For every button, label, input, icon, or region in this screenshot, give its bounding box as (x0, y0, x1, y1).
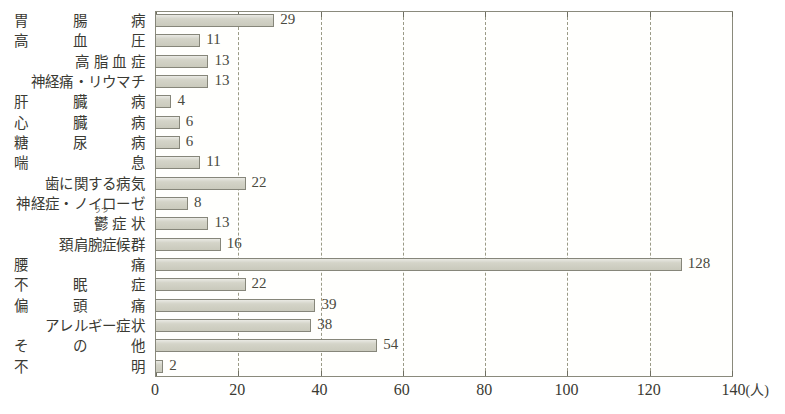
bar[interactable] (155, 197, 188, 210)
bar[interactable] (155, 14, 274, 27)
bar-row: 8 (155, 194, 733, 214)
bar[interactable] (155, 34, 200, 47)
ruby-furigana: うつ (94, 207, 101, 214)
x-tick-label: 100 (554, 379, 578, 401)
bar[interactable] (155, 238, 221, 251)
bar-row: 39 (155, 296, 733, 316)
ruby-annotated-text: うつ鬱 (94, 214, 113, 234)
bar-value-label: 13 (214, 71, 229, 90)
category-label: 高脂血症 (75, 52, 150, 72)
bar-row: 4 (155, 92, 733, 112)
category-label: 高 血 圧 (14, 31, 160, 51)
x-tick-label: 20 (229, 379, 245, 401)
x-tick-label: 120 (637, 379, 661, 401)
category-label: 頚肩腕症候群 (59, 235, 145, 255)
bar[interactable] (155, 177, 246, 190)
bar-row: 11 (155, 153, 733, 173)
bar-value-label: 6 (186, 132, 194, 151)
bar-value-label: 4 (177, 91, 185, 110)
bar[interactable] (155, 136, 180, 149)
bar-value-label: 2 (169, 356, 177, 375)
x-tick-label: 0 (151, 379, 159, 401)
bar-row: 13 (155, 214, 733, 234)
bar[interactable] (155, 339, 377, 352)
bar-value-label: 13 (214, 51, 229, 70)
bar-value-label: 128 (688, 254, 711, 273)
category-label: 不 明 (14, 357, 160, 377)
x-axis-unit-label: (人) (746, 383, 769, 398)
category-label: 喘 息 (14, 153, 160, 173)
bar-row: 11 (155, 31, 733, 51)
bar-row: 38 (155, 316, 733, 336)
bar-row: 22 (155, 174, 733, 194)
bar-row: 6 (155, 113, 733, 133)
bar[interactable] (155, 55, 208, 68)
bar-value-label: 16 (227, 234, 242, 253)
bar-row: 6 (155, 133, 733, 153)
x-tick-label: 140(人) (722, 379, 769, 402)
bar-value-label: 22 (252, 274, 267, 293)
bar-row: 54 (155, 336, 733, 356)
category-label: 偏 頭 痛 (14, 296, 160, 316)
bar-row: 13 (155, 52, 733, 72)
bar[interactable] (155, 360, 163, 373)
bar-value-label: 38 (317, 315, 332, 334)
category-label: 歯に関する病気 (45, 174, 145, 194)
bar-value-label: 39 (321, 295, 336, 314)
bar[interactable] (155, 95, 171, 108)
bar-value-label: 29 (280, 10, 295, 29)
category-label: 心 臓 病 (14, 113, 160, 133)
bar-value-label: 22 (252, 173, 267, 192)
x-tick-label: 80 (476, 379, 492, 401)
bar-row: 29 (155, 11, 733, 31)
category-axis-labels: 胃 腸 病高 血 圧高脂血症神経痛・リウマチ肝 臓 病心 臓 病糖 尿 病喘 息… (0, 11, 150, 377)
bar-value-label: 13 (214, 213, 229, 232)
bar[interactable] (155, 299, 315, 312)
category-label: 不 眠 症 (14, 275, 160, 295)
bar[interactable] (155, 258, 682, 271)
bar[interactable] (155, 217, 208, 230)
bar[interactable] (155, 116, 180, 129)
bar-row: 16 (155, 235, 733, 255)
bar[interactable] (155, 75, 208, 88)
bar[interactable] (155, 156, 200, 169)
category-label: 神経痛・リウマチ (31, 72, 145, 92)
bar-row: 13 (155, 72, 733, 92)
bar-value-label: 11 (206, 30, 220, 49)
bar-value-label: 54 (383, 335, 398, 354)
bar[interactable] (155, 278, 246, 291)
category-label: 肝 臓 病 (14, 92, 160, 112)
bar-value-label: 11 (206, 152, 220, 171)
bar[interactable] (155, 319, 311, 332)
bar-value-label: 8 (194, 193, 202, 212)
x-tick-label: 40 (312, 379, 328, 401)
category-label: そ の 他 (14, 336, 160, 356)
category-label: 胃 腸 病 (14, 11, 160, 31)
bar-value-label: 6 (186, 112, 194, 131)
bar-row: 22 (155, 275, 733, 295)
category-label: 糖 尿 病 (14, 133, 160, 153)
x-axis-tick-labels: 020406080100120140(人) (0, 379, 785, 409)
bar-row: 128 (155, 255, 733, 275)
category-label: アレルギー症状 (45, 316, 145, 336)
bar-row: 2 (155, 357, 733, 377)
horizontal-bar-chart: 胃 腸 病高 血 圧高脂血症神経痛・リウマチ肝 臓 病心 臓 病糖 尿 病喘 息… (0, 0, 785, 414)
category-label: 神経症・ノイローゼ (16, 194, 145, 214)
x-tick-label: 60 (394, 379, 410, 401)
bars-group: 29111313466112281316128223938542 (155, 11, 733, 377)
category-label: うつ鬱症状 (94, 214, 150, 234)
category-label: 腰 痛 (14, 255, 160, 275)
